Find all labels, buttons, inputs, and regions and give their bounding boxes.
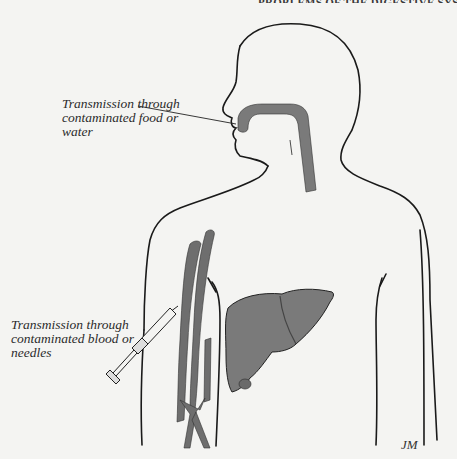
artist-signature: JM	[401, 437, 418, 453]
caption-blood-needles: Transmission through contaminated blood …	[11, 318, 134, 360]
caption-line: contaminated food or	[62, 111, 180, 125]
digestive-tract	[238, 104, 316, 192]
liver	[226, 289, 334, 392]
arm-blood-vessels	[177, 230, 214, 448]
caption-line: contaminated blood or	[11, 332, 134, 346]
human-figure-illustration	[0, 0, 457, 459]
caption-food-water: Transmission through contaminated food o…	[62, 97, 180, 139]
caption-line: Transmission through	[11, 318, 134, 332]
illustration-page: PROBLEMS OF THE DIGESTIVE SYSTEM	[0, 0, 457, 459]
caption-line: Transmission through	[62, 97, 180, 111]
caption-line: water	[62, 125, 180, 139]
caption-line: needles	[11, 346, 134, 360]
